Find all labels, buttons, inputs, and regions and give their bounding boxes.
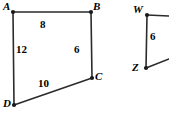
vertex-label-a: A	[3, 1, 10, 12]
vertex-dot-c	[90, 76, 94, 80]
vertex-dot-w	[145, 13, 149, 17]
vertex-label-z: Z	[132, 62, 139, 73]
vertex-dot-z	[144, 66, 148, 70]
edge-cd	[14, 78, 92, 105]
side-length-wz: 6	[150, 31, 156, 42]
vertex-dot-d	[12, 103, 16, 107]
quadrilateral-abcd-vertex-dots	[11, 10, 94, 107]
vertex-label-w: W	[133, 4, 143, 15]
edge-w-open	[147, 15, 169, 16]
vertex-label-b: B	[93, 1, 100, 12]
geometry-diagram: A B C D 8 6 10 12 W Z 6	[0, 0, 169, 119]
edge-bc	[91, 12, 92, 78]
side-length-cd: 10	[38, 78, 49, 89]
edge-da	[13, 12, 14, 105]
diagram-canvas	[0, 0, 169, 119]
edge-z-open	[146, 59, 169, 68]
vertex-label-d: D	[3, 98, 11, 109]
edge-wz	[146, 15, 147, 68]
vertex-label-c: C	[95, 71, 102, 82]
quadrilateral-abcd-edges	[13, 12, 92, 105]
side-length-bc: 6	[74, 44, 80, 55]
vertex-dot-a	[11, 10, 15, 14]
side-length-da: 12	[16, 44, 27, 55]
side-length-ab: 8	[40, 19, 46, 30]
